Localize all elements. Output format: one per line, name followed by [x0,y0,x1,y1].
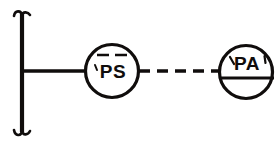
diagram-canvas: PS PA [0,0,278,144]
pa-right-tick [265,56,266,63]
vertical-bus-bar[interactable] [14,11,30,135]
ps-instrument-bubble[interactable]: PS [86,45,139,98]
pa-instrument-bubble[interactable]: PA [219,46,274,99]
ps-bubble-label: PS [100,61,126,82]
instrument-loop-diagram: PS PA [0,0,278,144]
pa-bubble-label: PA [234,53,260,74]
